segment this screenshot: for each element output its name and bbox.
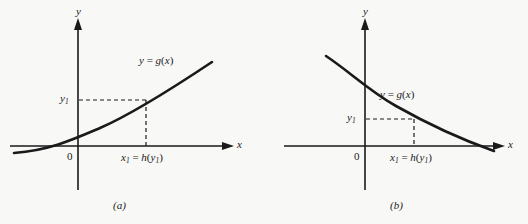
tick-label-y1-b: y1	[347, 112, 356, 124]
guide-lines-b	[366, 119, 414, 146]
figure-root: y x 0 y1 y = g(x) x1 = h(y1) (a)	[0, 0, 528, 224]
curve-label-b: y = g(x)	[380, 89, 414, 100]
axis-label-y-b: y	[363, 6, 368, 17]
panel-a-graph	[0, 0, 264, 224]
y-axis-b	[361, 18, 369, 190]
tick-label-y1-a: y1	[60, 93, 69, 105]
subscript-1: 1	[65, 97, 69, 106]
axis-label-x-a: x	[237, 139, 242, 150]
panel-b-graph	[264, 0, 528, 224]
curve-label-a: y = g(x)	[139, 55, 173, 66]
panel-caption-b: (b)	[390, 200, 403, 211]
figure-panel-b: y x 0 y1 y = g(x) x1 = h(y1) (b)	[264, 0, 528, 224]
panel-caption-a: (a)	[113, 200, 126, 211]
y-axis-a	[74, 18, 82, 190]
origin-label-a: 0	[67, 151, 73, 162]
axis-label-y-a: y	[76, 6, 81, 17]
point-label-x1-b: x1 = h(y1)	[390, 152, 432, 164]
curve-g-b	[326, 56, 494, 151]
origin-label-b: 0	[354, 151, 360, 162]
curve-g-a	[14, 62, 212, 153]
figure-panel-a: y x 0 y1 y = g(x) x1 = h(y1) (a)	[0, 0, 264, 224]
point-label-x1-a: x1 = h(y1)	[121, 152, 163, 164]
axis-label-x-b: x	[508, 139, 513, 150]
